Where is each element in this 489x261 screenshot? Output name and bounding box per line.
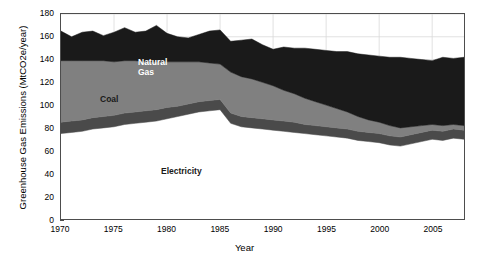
stacked-area-svg: [61, 14, 464, 219]
y-tick-label: 160: [28, 31, 54, 41]
chart-figure: Greenhouse Gas Emissions (MtCO2e/year) Y…: [0, 0, 489, 261]
y-tick-mark: [60, 220, 64, 221]
x-tick-label: 2005: [413, 224, 453, 234]
y-tick-label: 120: [28, 77, 54, 87]
x-tick-label: 1980: [147, 224, 187, 234]
x-tick-label: 1990: [253, 224, 293, 234]
y-tick-label: 80: [28, 123, 54, 133]
y-tick-label: 20: [28, 192, 54, 202]
x-tick-label: 1975: [93, 224, 133, 234]
y-tick-label: 60: [28, 146, 54, 156]
y-tick-label: 180: [28, 8, 54, 18]
y-tick-label: 100: [28, 100, 54, 110]
x-tick-label: 1985: [200, 224, 240, 234]
x-tick-label: 2000: [360, 224, 400, 234]
y-tick-label: 140: [28, 54, 54, 64]
x-axis-label: Year: [0, 242, 489, 253]
x-tick-label: 1970: [40, 224, 80, 234]
x-tick-label: 1995: [306, 224, 346, 234]
y-axis-label: Greenhouse Gas Emissions (MtCO2e/year): [17, 10, 28, 226]
y-tick-label: 40: [28, 169, 54, 179]
plot-area: [60, 13, 465, 220]
